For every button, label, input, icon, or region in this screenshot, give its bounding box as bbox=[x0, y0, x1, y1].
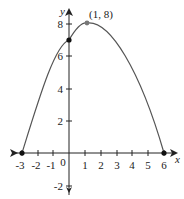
point-neg3-0 bbox=[19, 150, 24, 155]
svg-text:-1: -1 bbox=[46, 159, 55, 171]
vertex-point bbox=[85, 21, 90, 26]
svg-text:1: 1 bbox=[82, 159, 88, 171]
svg-text:-2: -2 bbox=[31, 159, 40, 171]
point-0-7 bbox=[66, 37, 71, 42]
x-tick-labels: -3 -2 -1 0 1 2 3 4 5 6 bbox=[15, 156, 167, 171]
x-axis-label: x bbox=[174, 153, 180, 165]
svg-text:8: 8 bbox=[58, 18, 64, 30]
svg-text:6: 6 bbox=[161, 159, 167, 171]
svg-text:0: 0 bbox=[60, 156, 66, 168]
svg-text:4: 4 bbox=[129, 159, 135, 171]
svg-text:2: 2 bbox=[58, 115, 64, 127]
svg-text:5: 5 bbox=[145, 159, 151, 171]
svg-text:2: 2 bbox=[98, 159, 104, 171]
parabola-curve bbox=[22, 23, 164, 153]
vertex-label: (1, 8) bbox=[89, 8, 113, 21]
svg-text:4: 4 bbox=[58, 83, 64, 95]
svg-text:-2: -2 bbox=[54, 180, 63, 192]
point-6-0 bbox=[161, 150, 166, 155]
y-axis-label: y bbox=[59, 5, 65, 17]
svg-text:3: 3 bbox=[114, 159, 120, 171]
parabola-chart: -3 -2 -1 0 1 2 3 4 5 6 x -2 2 4 6 8 y (1… bbox=[0, 0, 184, 199]
svg-text:-3: -3 bbox=[15, 159, 25, 171]
